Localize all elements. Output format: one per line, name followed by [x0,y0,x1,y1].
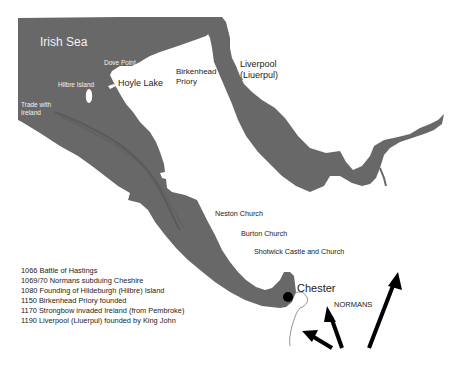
mersey-estuary [205,17,444,192]
label-irish-sea: Irish Sea [40,35,87,49]
legend-item: 1066 Battle of Hastings [21,266,184,276]
label-hoyle-lake: Hoyle Lake [118,78,163,89]
label-liverpool-line2: (Liuerpul) [240,70,278,81]
timeline-legend: 1066 Battle of Hastings 1069/70 Normans … [21,266,184,326]
label-shotwick: Shotwick Castle and Church [254,248,344,257]
label-trade-line1: Trade with [21,101,51,109]
label-burton-church: Burton Church [241,230,287,239]
label-normans: NORMANS [334,300,372,309]
legend-item: 1069/70 Normans subduing Cheshire [21,276,184,286]
label-dove-point: Dove Point [104,59,136,67]
legend-item: 1080 Founding of Hildeburgh (Hilbre) Isl… [21,286,184,296]
legend-item: 1170 Strongbow invaded Ireland (from Pem… [21,306,184,316]
label-birkenhead-line1: Birkenhead [176,67,216,77]
label-neston-church: Neston Church [215,210,263,219]
label-trade-line2: Ireland [21,109,51,117]
label-trade-with-ireland: Trade with Ireland [21,101,51,117]
legend-item: 1150 Birkenhead Priory founded [21,296,184,306]
label-chester: Chester [297,282,336,295]
label-birkenhead-line2: Priory [176,77,216,87]
label-hilbre-island: Hilbre Island [58,81,94,89]
chester-marker [283,292,293,302]
label-birkenhead-priory: Birkenhead Priory [176,67,216,87]
label-liverpool-line1: Liverpool [240,59,278,70]
label-liverpool: Liverpool (Liuerpul) [240,59,278,81]
legend-item: 1190 Liverpool (Liuerpul) founded by Kin… [21,316,184,326]
tributary [380,168,386,186]
hilbre-island [86,89,92,103]
